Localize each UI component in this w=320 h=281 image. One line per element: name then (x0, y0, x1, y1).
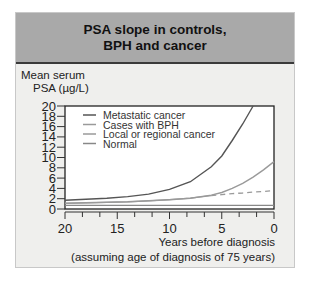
x-tick-label: 15 (110, 221, 124, 236)
x-axis-label-line-1: Years before diagnosis (71, 235, 275, 250)
y-tick-label: 20 (42, 99, 56, 114)
x-axis-label-line-2: (assuming age of diagnosis of 75 years) (71, 250, 275, 265)
x-tick-label: 0 (270, 221, 277, 236)
x-axis-label: Years before diagnosis (assuming age of … (71, 235, 275, 265)
x-tick-label: 20 (58, 221, 72, 236)
x-tick-label: 10 (162, 221, 176, 236)
x-tick-label: 5 (218, 221, 225, 236)
legend-label: Normal (103, 138, 137, 150)
